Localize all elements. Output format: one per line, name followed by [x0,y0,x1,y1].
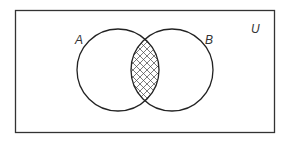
set-b-label: B [205,33,213,47]
universe-label: U [251,22,260,36]
venn-svg: A B U [0,0,288,142]
venn-diagram: A B U [0,0,288,142]
set-a-label: A [74,33,83,47]
